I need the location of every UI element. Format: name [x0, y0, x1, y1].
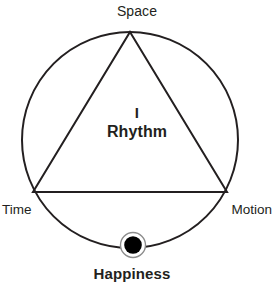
- outer-circle: [22, 32, 238, 248]
- diagram-canvas: [0, 0, 274, 287]
- happiness-marker-dot: [124, 236, 142, 254]
- label-space: Space: [0, 4, 274, 18]
- label-time: Time: [2, 203, 32, 217]
- happiness-marker: [121, 233, 146, 258]
- label-happiness: Happiness: [0, 266, 264, 281]
- label-center-i: I: [0, 105, 274, 120]
- rhythm-diagram: Space Time Motion I Rhythm Happiness: [0, 0, 274, 287]
- label-center-rhythm: Rhythm: [0, 124, 274, 140]
- label-motion: Motion: [231, 203, 272, 217]
